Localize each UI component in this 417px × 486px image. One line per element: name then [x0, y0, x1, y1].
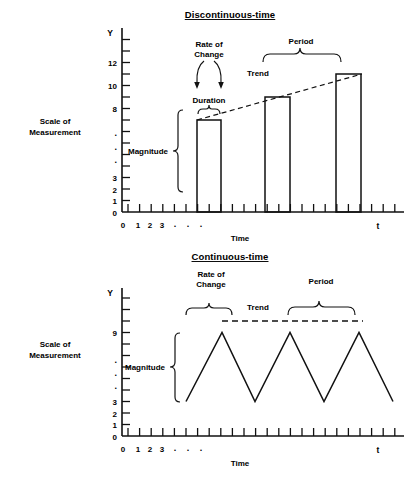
bar-1	[197, 120, 221, 212]
y-tick-label-dot-2: .	[114, 368, 117, 378]
x-tick-label-dot-2: .	[187, 443, 190, 453]
bar-3	[336, 74, 361, 212]
rate-of-change-brace	[186, 303, 232, 315]
x-tick-label-dot-1: .	[174, 219, 177, 229]
x-tick-label-3: 3	[160, 445, 165, 454]
x-axis-symbol: t	[377, 221, 380, 231]
x-tick-label-1: 1	[136, 221, 141, 230]
magnitude-label: Magnitude	[125, 363, 166, 372]
x-tick-label-dot-3: .	[200, 219, 203, 229]
rate-of-change-label-line2: Change	[196, 280, 226, 289]
y-tick-label-2: 2	[113, 410, 118, 419]
y-axis-side-label-line1: Scale of	[40, 117, 71, 126]
magnitude-brace	[170, 333, 180, 402]
y-tick-label-1: 1	[113, 197, 118, 206]
x-tick-marks	[128, 428, 395, 436]
y-axis-side-label-line2: Measurement	[29, 351, 81, 360]
bar-2	[265, 97, 290, 212]
y-axis-symbol: Y	[107, 288, 113, 298]
x-tick-label-2: 2	[148, 221, 153, 230]
y-tick-label-0: 0	[113, 433, 118, 442]
duration-brace	[198, 105, 220, 114]
rate-of-change-arrowhead-right	[218, 82, 224, 89]
rate-of-change-label-line2: Change	[194, 50, 224, 59]
rate-of-change-label-line1: Rate of	[195, 40, 222, 49]
bar-series	[197, 74, 361, 212]
rate-of-change-label-line1: Rate of	[197, 270, 224, 279]
x-tick-label-0: 0	[121, 221, 126, 230]
x-axis-symbol: t	[377, 445, 380, 455]
magnitude-label: Magnitude	[128, 147, 169, 156]
y-tick-label-dot-1: .	[114, 128, 117, 138]
y-tick-label-dot-3: .	[114, 155, 117, 165]
period-brace	[288, 301, 355, 315]
period-label: Period	[289, 37, 314, 46]
x-tick-label-dot-2: .	[187, 219, 190, 229]
y-tick-label-dot-1: .	[114, 355, 117, 365]
x-tick-marks	[128, 204, 395, 212]
period-label: Period	[309, 277, 334, 286]
y-axis-side-label-line1: Scale of	[40, 340, 71, 349]
rate-of-change-arrows	[197, 61, 221, 83]
discontinuous-time-chart: Discontinuous-time Scale of Measurement …	[0, 0, 417, 243]
x-tick-label-1: 1	[136, 445, 141, 454]
y-axis-symbol: Y	[107, 28, 113, 38]
period-brace	[263, 48, 341, 62]
y-tick-label-9: 9	[113, 329, 118, 338]
magnitude-brace	[173, 110, 183, 192]
y-tick-marks	[122, 40, 130, 201]
y-tick-label-dot-3: .	[114, 381, 117, 391]
x-tick-label-dot-3: .	[200, 443, 203, 453]
y-axis-side-label-line2: Measurement	[29, 128, 81, 137]
x-tick-label-0: 0	[121, 445, 126, 454]
y-tick-label-1: 1	[113, 421, 118, 430]
y-tick-label-3: 3	[113, 174, 118, 183]
y-tick-label-2: 2	[113, 186, 118, 195]
figure-continuous-time: Continuous-time Scale of Measurement Y 9…	[0, 243, 417, 486]
chart-title-continuous: Continuous-time	[192, 251, 269, 262]
duration-label: Duration	[193, 96, 226, 105]
figure-discontinuous-time: Discontinuous-time Scale of Measurement …	[0, 0, 417, 243]
y-tick-label-12: 12	[108, 59, 117, 68]
y-tick-label-8: 8	[113, 105, 118, 114]
x-tick-label-2: 2	[148, 445, 153, 454]
y-tick-label-3: 3	[113, 398, 118, 407]
continuous-time-chart: Continuous-time Scale of Measurement Y 9…	[0, 243, 417, 486]
rate-of-change-arrowhead-left	[194, 82, 200, 89]
trend-label: Trend	[247, 303, 269, 312]
triangular-waveform	[186, 333, 393, 402]
x-axis-title: Time	[231, 234, 250, 243]
x-tick-label-dot-1: .	[174, 443, 177, 453]
y-tick-label-0: 0	[113, 209, 118, 218]
x-tick-label-3: 3	[160, 221, 165, 230]
y-tick-label-10: 10	[108, 82, 117, 91]
trend-label: Trend	[247, 69, 269, 78]
y-tick-label-dot-2: .	[114, 142, 117, 152]
y-tick-marks	[122, 298, 130, 425]
x-axis-title: Time	[231, 459, 250, 468]
chart-title-discontinuous: Discontinuous-time	[185, 9, 275, 20]
